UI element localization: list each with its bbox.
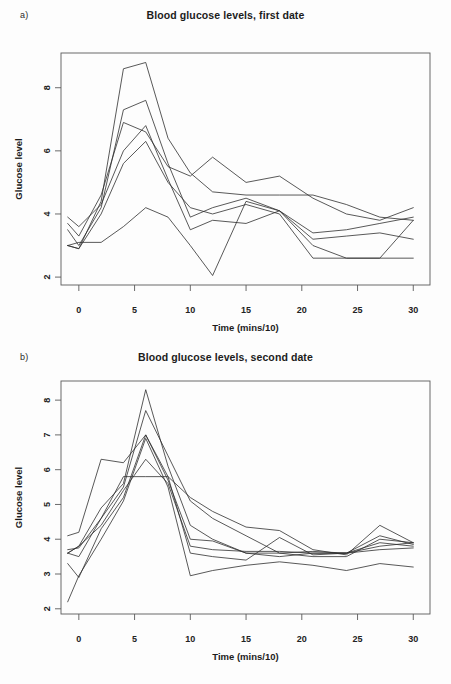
y-tick-label: 2 — [42, 606, 52, 611]
series-line — [68, 435, 414, 578]
x-tick-label: 15 — [241, 634, 251, 644]
y-axis-title: Glucose level — [13, 467, 24, 528]
y-tick-label: 3 — [42, 571, 52, 576]
series-line — [68, 126, 414, 240]
chart-panel-a: a) Blood glucose levels, first date 2468… — [0, 0, 451, 342]
x-axis-title: Time (mins/10) — [212, 322, 278, 333]
y-tick-label: 8 — [42, 85, 52, 90]
series-line — [68, 122, 414, 236]
x-tick-label: 5 — [132, 305, 137, 315]
plot-area-a: 2468051015202530Time (mins/10)Glucose le… — [0, 0, 451, 342]
series-line — [68, 459, 414, 553]
series-line — [68, 390, 414, 557]
x-tick-label: 0 — [76, 634, 81, 644]
series-line — [68, 62, 414, 248]
y-tick-label: 7 — [42, 432, 52, 437]
y-tick-label: 4 — [42, 211, 52, 216]
chart-panel-b: b) Blood glucose levels, second date 234… — [0, 342, 451, 684]
y-tick-label: 6 — [42, 148, 52, 153]
x-tick-label: 25 — [353, 634, 363, 644]
y-tick-label: 6 — [42, 467, 52, 472]
y-tick-label: 2 — [42, 275, 52, 280]
plot-frame — [61, 53, 430, 285]
x-tick-label: 10 — [185, 634, 195, 644]
plot-area-b: 2345678051015202530Time (mins/10)Glucose… — [0, 342, 451, 684]
series-line — [68, 438, 414, 601]
y-axis-title: Glucose level — [13, 138, 24, 199]
x-tick-label: 15 — [241, 305, 251, 315]
x-axis-title: Time (mins/10) — [212, 651, 278, 662]
y-tick-label: 4 — [42, 537, 52, 542]
x-tick-label: 30 — [408, 634, 418, 644]
series-line — [68, 435, 414, 553]
figure-page: a) Blood glucose levels, first date 2468… — [0, 0, 451, 684]
y-tick-label: 8 — [42, 398, 52, 403]
x-tick-label: 10 — [185, 305, 195, 315]
x-tick-label: 5 — [132, 634, 137, 644]
series-line — [68, 201, 414, 275]
x-tick-label: 20 — [297, 634, 307, 644]
y-tick-label: 5 — [42, 502, 52, 507]
x-tick-label: 20 — [297, 305, 307, 315]
x-tick-label: 25 — [353, 305, 363, 315]
x-tick-label: 30 — [408, 305, 418, 315]
series-line — [68, 477, 414, 560]
x-tick-label: 0 — [76, 305, 81, 315]
